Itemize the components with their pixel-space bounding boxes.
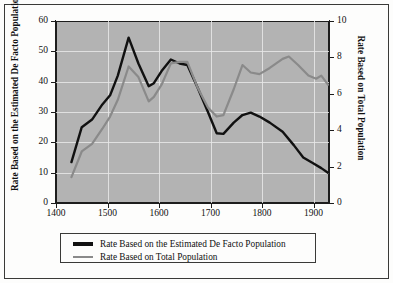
y-axis-right-ticklabel: 10 bbox=[337, 16, 357, 26]
y-axis-right-ticklabel: 2 bbox=[337, 162, 357, 172]
series-lines bbox=[56, 21, 329, 203]
y-axis-left-ticklabel: 10 bbox=[28, 168, 48, 178]
y-axis-left-ticklabel: 20 bbox=[28, 137, 48, 147]
y-axis-right-line bbox=[329, 20, 330, 204]
legend-swatch-de-facto bbox=[73, 242, 93, 245]
y-axis-left-tick bbox=[51, 142, 55, 143]
y-axis-left-tick bbox=[51, 82, 55, 83]
y-axis-left-tick bbox=[51, 112, 55, 113]
y-axis-left-ticklabel: 50 bbox=[28, 46, 48, 56]
y-axis-left-tick bbox=[51, 51, 55, 52]
y-axis-right-ticklabel: 8 bbox=[337, 52, 357, 62]
y-axis-right-ticklabel: 4 bbox=[337, 125, 357, 135]
chart-figure: Rate Based on the Estimated De Facto Pop… bbox=[0, 0, 393, 283]
y-axis-left-title: Rate Based on the Estimated De Facto Pop… bbox=[10, 5, 20, 191]
legend-item-de-facto: Rate Based on the Estimated De Facto Pop… bbox=[73, 238, 315, 250]
y-axis-right-tick bbox=[330, 167, 334, 168]
y-axis-left-ticklabel: 40 bbox=[28, 77, 48, 87]
y-axis-right-tick bbox=[330, 21, 334, 22]
y-axis-left-ticklabel: 0 bbox=[28, 198, 48, 208]
x-axis-ticklabel: 1700 bbox=[191, 208, 231, 218]
legend-item-total: Rate Based on Total Population bbox=[73, 251, 315, 263]
y-axis-left-tick bbox=[51, 21, 55, 22]
x-axis-line bbox=[55, 203, 330, 204]
y-axis-right-ticklabel: 6 bbox=[337, 89, 357, 99]
y-axis-left-tick bbox=[51, 203, 55, 204]
x-axis-ticklabel: 1900 bbox=[294, 208, 334, 218]
plot-area bbox=[56, 21, 329, 203]
y-axis-right-tick bbox=[330, 203, 334, 204]
x-axis-ticklabel: 1800 bbox=[242, 208, 282, 218]
y-axis-right-tick bbox=[330, 94, 334, 95]
x-axis-ticklabel: 1400 bbox=[36, 208, 76, 218]
legend-swatch-total bbox=[73, 256, 93, 259]
y-axis-right-ticklabels: 0246810 bbox=[337, 0, 359, 283]
y-axis-left-tick bbox=[51, 173, 55, 174]
x-axis-ticklabel: 1600 bbox=[139, 208, 179, 218]
y-axis-left-ticklabel: 60 bbox=[28, 16, 48, 26]
y-axis-right-ticklabel: 0 bbox=[337, 198, 357, 208]
legend-label-total: Rate Based on Total Population bbox=[100, 252, 217, 262]
legend-label-de-facto: Rate Based on the Estimated De Facto Pop… bbox=[100, 239, 286, 249]
y-axis-right-tick bbox=[330, 57, 334, 58]
y-axis-right-tick bbox=[330, 130, 334, 131]
x-axis-ticklabel: 1500 bbox=[88, 208, 128, 218]
series-line-total bbox=[71, 56, 328, 177]
y-axis-left-ticklabels: 0102030405060 bbox=[26, 0, 48, 283]
chart-legend: Rate Based on the Estimated De Facto Pop… bbox=[60, 233, 316, 263]
y-axis-left-ticklabel: 30 bbox=[28, 107, 48, 117]
